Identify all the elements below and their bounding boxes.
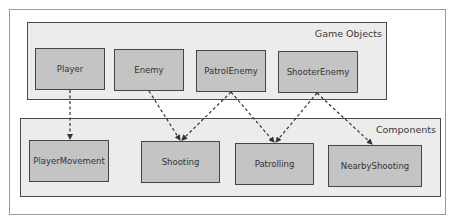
game-objects-label: Game Objects	[315, 28, 382, 39]
node-enemy: Enemy	[114, 49, 184, 91]
node-nearby-shooting: NearbyShooting	[328, 145, 422, 187]
node-shooter-enemy: ShooterEnemy	[278, 51, 358, 93]
node-label: Shooting	[162, 157, 200, 167]
node-label: Patrolling	[255, 159, 295, 169]
node-patrolling: Patrolling	[235, 143, 314, 185]
node-label: PatrolEnemy	[204, 66, 257, 76]
components-label: Components	[376, 124, 436, 135]
node-label: ShooterEnemy	[287, 67, 350, 77]
node-shooting: Shooting	[141, 141, 220, 183]
node-label: PlayerMovement	[33, 156, 104, 166]
node-label: Player	[57, 64, 83, 74]
node-label: NearbyShooting	[341, 161, 409, 171]
node-label: Enemy	[134, 65, 163, 75]
node-patrol-enemy: PatrolEnemy	[196, 50, 266, 92]
node-player-movement: PlayerMovement	[29, 140, 109, 182]
node-player: Player	[35, 48, 105, 90]
